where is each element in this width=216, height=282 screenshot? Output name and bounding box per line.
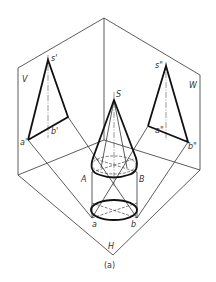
label-plane-h: H: [108, 242, 114, 251]
construction-lines: [28, 55, 188, 218]
label-point-a: a: [92, 220, 97, 229]
label-plane-v: V: [22, 75, 28, 84]
figure-caption: (a): [104, 261, 115, 270]
label-a-double-prime: a": [155, 126, 164, 135]
cone-generator-right: [114, 100, 127, 168]
w-projection-triangle: [148, 66, 188, 142]
label-s-prime: s': [51, 54, 57, 63]
label-plane-w: W: [189, 81, 198, 90]
label-point-b: b: [131, 220, 136, 229]
label-b-double-prime: b": [188, 142, 197, 151]
label-point-B: B: [139, 175, 145, 184]
label-apex-s: S: [116, 90, 121, 99]
label-b-prime: b': [51, 127, 58, 136]
cone: [92, 92, 137, 186]
label-a-prime: a': [20, 138, 27, 147]
label-s-double-prime: s": [155, 61, 163, 70]
label-point-A: A: [80, 175, 86, 184]
h-plane-outline: [18, 140, 200, 255]
cone-projection-diagram: V W H S A B s' a' b' s" a" b" a b (a): [0, 0, 216, 282]
cone-generator-left: [101, 100, 114, 168]
